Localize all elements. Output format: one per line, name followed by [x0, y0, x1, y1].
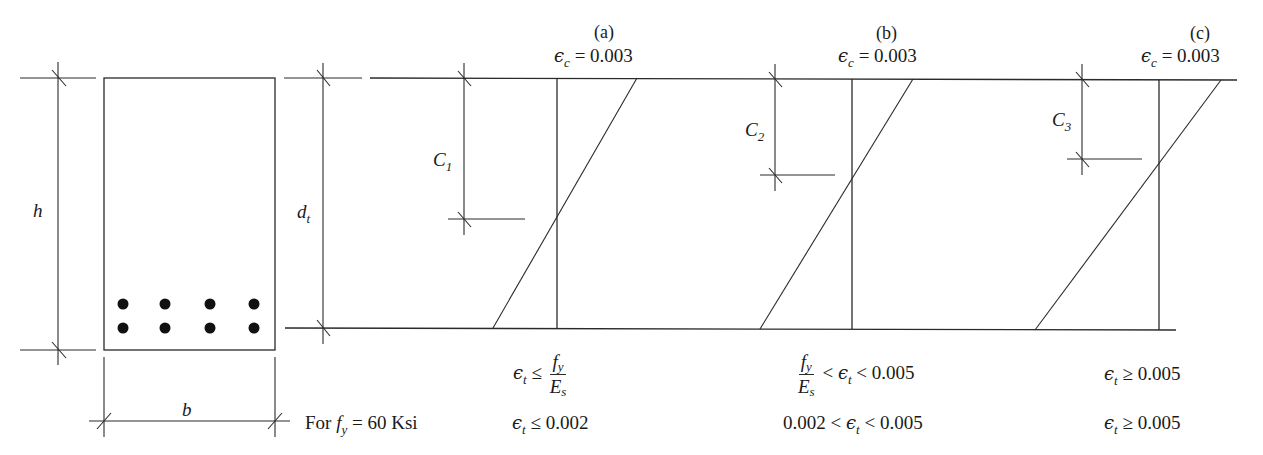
strain-top-c: ϵc = 0.003	[1141, 46, 1220, 65]
dimension-b	[89, 357, 290, 437]
strain-profile-a	[448, 63, 637, 328]
strain-diagram-figure	[0, 0, 1263, 455]
strain-top-b: ϵc = 0.003	[838, 46, 917, 65]
label-c1: C1	[433, 150, 452, 169]
condition-general-a: ϵt ≤ fyEs	[513, 352, 569, 397]
label-b: b	[182, 400, 192, 419]
label-c3: C3	[1052, 110, 1071, 129]
condition-general-b: fyEs < ϵt < 0.005	[795, 352, 915, 397]
beam-cross-section	[104, 78, 275, 350]
condition-general-c: ϵt ≥ 0.005	[1104, 364, 1180, 383]
caption-b: (b)	[876, 24, 897, 42]
steel-level-line	[285, 328, 1176, 330]
condition-60ksi-a: ϵt ≤ 0.002	[512, 413, 588, 432]
label-c2: C2	[745, 120, 764, 139]
label-h: h	[33, 201, 43, 220]
dimension-h	[20, 62, 96, 365]
strain-profile-c	[1035, 64, 1221, 330]
condition-60ksi-b: 0.002 < ϵt < 0.005	[783, 413, 923, 432]
caption-a: (a)	[594, 23, 614, 41]
label-dt: dt	[297, 202, 310, 221]
strain-top-a: ϵc = 0.003	[554, 46, 633, 65]
strain-profile-b	[760, 64, 913, 329]
reinforcing-bars	[118, 299, 260, 334]
caption-c: (c)	[1190, 24, 1210, 42]
top-fiber-line	[370, 78, 1237, 80]
row-label-60ksi: For fy = 60 Ksi	[305, 413, 418, 432]
condition-60ksi-c: ϵt ≥ 0.005	[1104, 413, 1180, 432]
dimension-dt	[284, 63, 362, 344]
beam-outline	[104, 78, 275, 350]
